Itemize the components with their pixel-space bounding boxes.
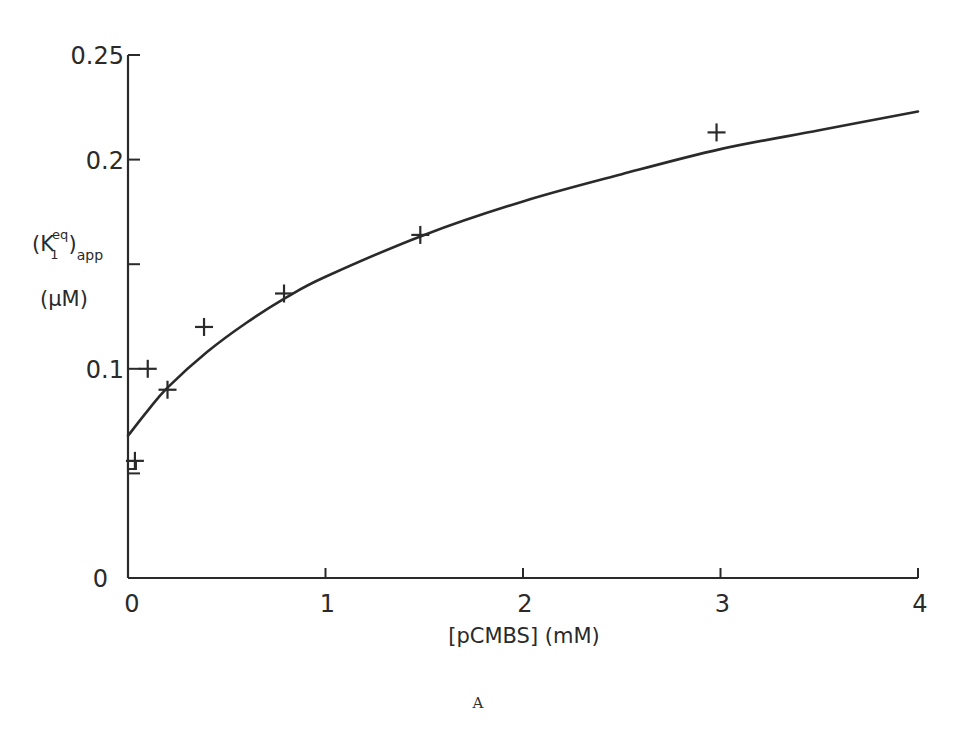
axis-ticks: 00.10.20.2501234	[71, 42, 928, 618]
y-axis-label: (Keq1)app (μM)	[32, 227, 103, 311]
data-points	[126, 123, 726, 469]
fitted-curve	[128, 111, 918, 435]
x-tick-label: 1	[320, 590, 335, 618]
data-point-plus	[708, 123, 726, 141]
y-axis-unit: (μM)	[40, 287, 88, 311]
fit-line	[128, 111, 918, 435]
x-axis-label: [pCMBS] (mM)	[448, 624, 600, 648]
y-axis-label-symbol: (Keq1)app	[32, 227, 103, 263]
chart-canvas: 00.10.20.2501234 [pCMBS] (mM) (Keq1)app …	[0, 0, 956, 751]
panel-label: A	[472, 694, 484, 712]
data-point-plus	[139, 360, 157, 378]
x-tick-label: 3	[715, 590, 730, 618]
y-tick-label: 0.2	[86, 147, 124, 175]
data-point-plus	[195, 318, 213, 336]
y-tick-label: 0	[93, 565, 108, 593]
x-tick-label: 2	[517, 590, 532, 618]
y-tick-label: 0.25	[71, 42, 124, 70]
y-tick-label: 0.1	[86, 356, 124, 384]
x-tick-label: 0	[124, 590, 139, 618]
data-point-plus	[275, 284, 293, 302]
data-point-plus	[411, 226, 429, 244]
x-tick-label: 4	[912, 590, 927, 618]
